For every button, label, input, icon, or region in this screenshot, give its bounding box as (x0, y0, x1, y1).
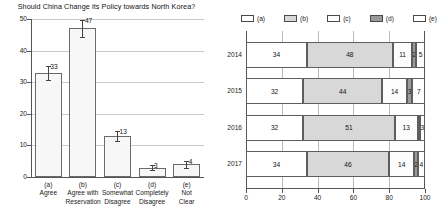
segment-2015-a: 32 (246, 78, 303, 104)
bar-value-label-2: 13 (120, 128, 127, 135)
error-cap-4-1 (184, 168, 189, 169)
x-tick-label-60: 60 (341, 194, 365, 201)
y-tick-30 (27, 82, 31, 83)
x-category-label-1: (b)Agree withReservation (66, 181, 101, 206)
y-axis (31, 19, 32, 178)
y-tick-10 (27, 145, 31, 146)
segment-2016-c: 13 (395, 115, 418, 141)
bar-b (69, 28, 96, 177)
segment-2017-c: 14 (389, 151, 414, 177)
year-label-2016: 2016 (216, 115, 242, 141)
bar-chart-policy-opinion: Should China Change its Policy towards N… (0, 0, 213, 223)
legend-label-2: (c) (343, 15, 351, 22)
segment-2014-b: 48 (307, 42, 393, 68)
legend-item-a[interactable]: (a) (241, 15, 265, 22)
error-cap-2-1 (115, 141, 120, 142)
x-axis (31, 177, 204, 178)
y-tick-label-0: 0 (7, 173, 27, 180)
segment-2016-b: 51 (303, 115, 394, 141)
y-tick-label-40: 40 (7, 47, 27, 54)
legend-swatch-icon-4 (413, 15, 426, 22)
x-tick-100 (425, 189, 426, 193)
x-tick-80 (389, 189, 390, 193)
legend-item-b[interactable]: (b) (284, 15, 308, 22)
error-bar-0 (48, 66, 49, 80)
segment-2017-e: 4 (418, 151, 425, 177)
error-cap-0-1 (46, 80, 51, 81)
x-category-label-2: (c)SomewhatDisagree (100, 181, 135, 206)
legend-label-0: (a) (257, 15, 265, 22)
y-tick-label-50: 50 (7, 15, 27, 22)
bar-value-label-3: 3 (154, 162, 158, 169)
y-tick-label-30: 30 (7, 78, 27, 85)
chart-title: Should China Change its Policy towards N… (0, 2, 213, 11)
y-tick-20 (27, 114, 31, 115)
legend-item-e[interactable]: (e) (413, 15, 437, 22)
y-tick-40 (27, 51, 31, 52)
gridline-50 (32, 19, 204, 20)
stacked-bar-row-2017: 201734461424 (246, 151, 425, 177)
segment-2016-e: 3 (420, 115, 425, 141)
y-tick-label-20: 20 (7, 110, 27, 117)
y-tick-50 (27, 19, 31, 20)
legend-swatch-icon-0 (241, 15, 254, 22)
x-category-label-4: (e)NotClear (169, 181, 204, 206)
bar-value-label-1: 47 (85, 17, 92, 24)
stacked-bar-row-2015: 201532441437 (246, 78, 425, 104)
x-tick-60 (353, 189, 354, 193)
segment-2014-e: 5 (416, 42, 425, 68)
x-category-label-3: (d)CompletelyDisagree (135, 181, 170, 206)
stacked-bar-row-2014: 201434481125 (246, 42, 425, 68)
error-bar-1 (82, 20, 83, 36)
stacked-bar-chart-by-year: (a)(b)(c)(d)(e) 201434481125201532441437… (213, 0, 441, 223)
x-axis-right (246, 188, 425, 189)
legend-swatch-icon-1 (284, 15, 297, 22)
segment-2017-a: 34 (246, 151, 307, 177)
year-label-2014: 2014 (216, 42, 242, 68)
segment-2014-a: 34 (246, 42, 307, 68)
legend-item-c[interactable]: (c) (327, 15, 351, 22)
legend-label-3: (d) (386, 15, 394, 22)
error-cap-1-1 (80, 37, 85, 38)
x-tick-label-100: 100 (413, 194, 437, 201)
year-label-2015: 2015 (216, 78, 242, 104)
plot-area: 01020304050 33471334 (a)Agree(b)Agree wi… (31, 19, 204, 178)
legend-item-d[interactable]: (d) (370, 15, 394, 22)
legend-label-1: (b) (300, 15, 308, 22)
x-tick-label-20: 20 (270, 194, 294, 201)
bar-c (104, 136, 131, 177)
legend-swatch-icon-3 (370, 15, 383, 22)
y-tick-label-10: 10 (7, 141, 27, 148)
x-category-label-0: (a)Agree (31, 181, 66, 198)
x-tick-label-0: 0 (234, 194, 258, 201)
error-bar-2 (117, 131, 118, 141)
segment-2016-a: 32 (246, 115, 303, 141)
legend-swatch-icon-2 (327, 15, 340, 22)
x-tick-40 (318, 189, 319, 193)
stacked-bar-row-2016: 201632511313 (246, 115, 425, 141)
bar-a (35, 73, 62, 177)
gridline-40 (32, 51, 204, 52)
x-tick-20 (282, 189, 283, 193)
bar-value-label-0: 33 (50, 63, 57, 70)
bar-value-label-4: 4 (189, 158, 193, 165)
segment-2015-b: 44 (303, 78, 382, 104)
y-tick-0 (27, 177, 31, 178)
segment-2014-c: 11 (393, 42, 413, 68)
x-tick-label-80: 80 (377, 194, 401, 201)
segment-2015-e: 7 (412, 78, 425, 104)
plot-area-right: 2014344811252015324414372016325113132017… (246, 31, 425, 188)
x-tick-0 (246, 189, 247, 193)
error-cap-3-1 (150, 170, 155, 171)
year-label-2017: 2017 (216, 151, 242, 177)
legend-label-4: (e) (429, 15, 437, 22)
chart-legend: (a)(b)(c)(d)(e) (241, 12, 437, 24)
segment-2015-c: 14 (382, 78, 407, 104)
segment-2017-b: 46 (307, 151, 389, 177)
x-tick-label-40: 40 (306, 194, 330, 201)
